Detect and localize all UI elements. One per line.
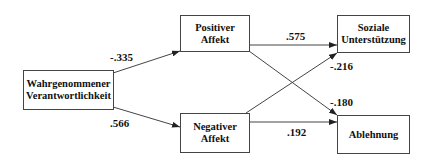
node-rejection: Ablehnung [337, 115, 410, 154]
node-label-line2: Verantwortlichkeit [26, 90, 111, 102]
node-perceived-responsibility: Wahrgenommener Verantwortlichkeit [23, 70, 114, 110]
node-label-line2: Affekt [201, 34, 230, 46]
coef-negative-support: -.216 [330, 60, 353, 72]
coef-positive-support: .575 [286, 30, 305, 42]
node-label-line1: Soziale [358, 22, 390, 34]
node-label-line2: Unterstützung [341, 34, 406, 46]
node-negative-affect: Negativer Affekt [180, 113, 250, 153]
node-label-line1: Ablehnung [349, 129, 399, 141]
coef-positive-rejection: -.180 [330, 96, 353, 108]
node-social-support: Soziale Unterstützung [337, 15, 410, 53]
coef-responsibility-negative: .566 [110, 117, 129, 129]
node-positive-affect: Positiver Affekt [180, 15, 250, 52]
arrow-negative-to-support [246, 53, 337, 113]
node-label-line2: Affekt [201, 133, 230, 145]
arrow-positive-to-rejection [249, 51, 337, 115]
coef-responsibility-positive: -.335 [110, 51, 133, 63]
node-label-line1: Negativer [193, 121, 237, 133]
node-label-line1: Wahrgenommener [27, 78, 111, 90]
coef-negative-rejection: .192 [287, 126, 306, 138]
node-label-line1: Positiver [195, 22, 235, 34]
